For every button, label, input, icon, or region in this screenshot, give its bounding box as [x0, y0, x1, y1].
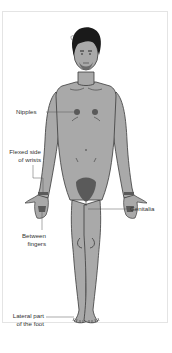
label-wrists-line1: Flexed side [7, 148, 41, 156]
label-nipples: Nipples [16, 108, 37, 116]
neck [78, 72, 94, 86]
legs [71, 200, 100, 323]
body-figure [0, 0, 172, 353]
wrist-band-left [38, 192, 48, 195]
label-fingers: Between fingers [10, 232, 46, 247]
label-wrists-line2: of wrists [7, 156, 41, 164]
label-foot-line1: Lateral part [4, 312, 44, 320]
label-fingers-line1: Between [10, 232, 46, 240]
label-foot: Lateral part of the foot [4, 312, 44, 327]
nipple-right [92, 109, 98, 115]
wrist-band-right [124, 192, 134, 195]
label-foot-line2: of the foot [4, 320, 44, 328]
label-fingers-line2: fingers [10, 240, 46, 248]
label-wrists: Flexed side of wrists [7, 148, 41, 163]
finger-web-left [38, 206, 46, 212]
nipple-left [74, 109, 80, 115]
label-genitalia: Genitalia [130, 205, 154, 213]
